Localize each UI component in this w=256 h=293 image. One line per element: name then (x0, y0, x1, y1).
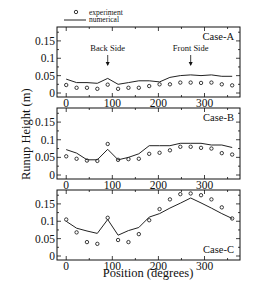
y-tick-label: 0.15 (35, 116, 55, 128)
panel-case-c: 00.050.10.150100200300Case-C (35, 190, 240, 272)
experiment-point (210, 81, 213, 84)
x-tick-label: 0 (63, 179, 69, 191)
experiment-point (179, 81, 182, 84)
experiment-point (179, 145, 182, 148)
experiment-point (220, 83, 223, 86)
experiment-point (168, 198, 171, 201)
experiment-point (199, 81, 202, 84)
experiment-point (75, 157, 78, 160)
y-tick-label: 0.05 (35, 151, 55, 163)
experiment-point (137, 86, 140, 89)
x-tick-label: 0 (63, 97, 69, 109)
experiment-point (158, 207, 161, 210)
y-tick-label: 0 (49, 87, 55, 99)
experiment-point (65, 155, 68, 158)
y-tick-label: 0.1 (41, 134, 56, 146)
case-label: Case-B (203, 112, 234, 123)
experiment-point (158, 151, 161, 154)
experiment-point (127, 240, 130, 243)
experiment-point (75, 86, 78, 89)
y-tick-label: 0.05 (35, 70, 55, 82)
experiment-point (65, 218, 68, 221)
experiment-point (106, 83, 109, 86)
annotation-arrow-head (106, 62, 110, 66)
experiment-point (179, 192, 182, 195)
experiment-point (220, 206, 223, 209)
y-tick-label: 0.05 (35, 233, 55, 245)
x-tick-label: 100 (104, 260, 122, 272)
y-tick-label: 0.1 (41, 52, 56, 64)
experiment-point (230, 153, 233, 156)
x-tick-label: 200 (150, 179, 168, 191)
experiment-point (199, 146, 202, 149)
experiment-point (96, 87, 99, 90)
experiment-point (137, 157, 140, 160)
x-tick-label: 300 (196, 97, 214, 109)
runup-chart-figure: experiment numerical Runup Height (m) Po… (0, 0, 256, 293)
experiment-point (116, 87, 119, 90)
experiment-point (116, 238, 119, 241)
y-tick-label: 0.1 (41, 215, 56, 227)
experiment-point (168, 83, 171, 86)
experiment-point (85, 86, 88, 89)
experiment-point (96, 242, 99, 245)
experiment-point (189, 81, 192, 84)
legend: experiment numerical (64, 8, 124, 25)
x-tick-label: 0 (63, 260, 69, 272)
experiment-point (65, 83, 68, 86)
experiment-point (137, 232, 140, 235)
case-label: Case-A (203, 31, 235, 42)
experiment-point (127, 86, 130, 89)
legend-experiment-marker (74, 10, 77, 13)
experiment-point (230, 84, 233, 87)
experiment-point (168, 149, 171, 152)
annotation-label: Front Side (173, 43, 209, 53)
x-tick-label: 100 (104, 97, 122, 109)
x-tick-label: 100 (104, 179, 122, 191)
y-axis-title: Runup Height (m) (19, 88, 33, 180)
panel-case-b: 00.050.10.150100200300Case-B (35, 108, 240, 191)
y-tick-label: 0.15 (35, 35, 55, 47)
annotation-label: Back Side (90, 43, 125, 53)
experiment-point (158, 83, 161, 86)
experiment-point (220, 151, 223, 154)
numerical-line (66, 143, 232, 160)
numerical-line (66, 75, 232, 84)
panel-case-a: 00.050.10.150100200300Case-ABack SideFro… (35, 27, 240, 109)
legend-numerical-label: numerical (89, 15, 119, 24)
y-tick-label: 0 (49, 250, 55, 262)
experiment-point (147, 152, 150, 155)
experiment-point (85, 240, 88, 243)
experiment-point (210, 147, 213, 150)
experiment-point (147, 219, 150, 222)
annotation-arrow-head (189, 62, 193, 66)
numerical-line (66, 198, 232, 235)
x-tick-label: 200 (150, 260, 168, 272)
experiment-point (199, 194, 202, 197)
x-tick-label: 300 (196, 179, 214, 191)
experiment-point (147, 84, 150, 87)
x-tick-label: 300 (196, 260, 214, 272)
experiment-point (189, 192, 192, 195)
experiment-point (189, 145, 192, 148)
x-tick-label: 200 (150, 97, 168, 109)
y-tick-label: 0 (49, 169, 55, 181)
y-tick-label: 0.15 (35, 198, 55, 210)
experiment-point (106, 142, 109, 145)
case-label: Case-C (203, 244, 234, 255)
experiment-point (75, 231, 78, 234)
experiment-point (210, 198, 213, 201)
